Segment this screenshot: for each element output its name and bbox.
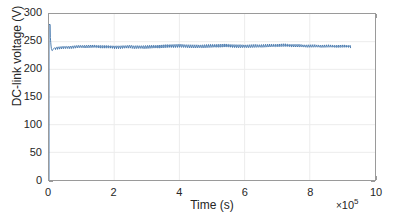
y-tick-mark [49, 181, 53, 182]
figure-canvas: DC-link voltage (V) 050100150200250300 0… [0, 0, 395, 220]
x-tick-label: 0 [28, 187, 68, 198]
x-tick-label: 2 [94, 187, 134, 198]
x-tick-label: 10 [356, 187, 395, 198]
x-tick-label: 8 [290, 187, 330, 198]
y-tick-label: 300 [24, 7, 42, 18]
x-axis-exponent-base: 10 [342, 199, 354, 211]
data-series-dc-link-voltage [49, 14, 375, 180]
y-tick-label: 250 [24, 35, 42, 46]
x-axis-exponent-power: 5 [354, 197, 358, 206]
y-tick-label: 0 [36, 175, 42, 186]
x-tick-label: 6 [225, 187, 265, 198]
x-tick-label: 4 [159, 187, 199, 198]
y-tick-label: 50 [30, 147, 42, 158]
x-tick-mark [376, 14, 377, 18]
y-tick-label: 100 [24, 119, 42, 130]
y-tick-label: 200 [24, 63, 42, 74]
x-tick-mark [376, 176, 377, 180]
x-axis-title: Time (s) [48, 198, 376, 212]
plot-area [48, 13, 376, 181]
y-tick-mark [371, 181, 375, 182]
y-tick-label: 150 [24, 91, 42, 102]
x-axis-exponent: ×105 [336, 199, 359, 211]
y-axis-title: DC-link voltage (V) [10, 0, 24, 136]
